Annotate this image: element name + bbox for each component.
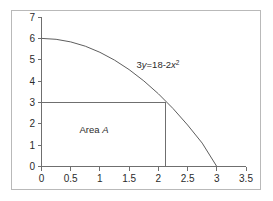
x-tick-label-1p5: 1.5 [122, 173, 136, 184]
area-label-var: A [101, 124, 108, 135]
x-axis-group: 0 0.5 1 1.5 2 2.5 3 3.5 [39, 167, 254, 185]
y-axis-group: 0 1 2 3 4 5 6 7 [29, 12, 41, 173]
area-label-prefix: Area [79, 124, 102, 135]
x-tick-label-2p5: 2.5 [181, 173, 195, 184]
y-tick-label-1: 1 [29, 140, 35, 151]
equation-mid: =18-2 [147, 59, 172, 70]
x-tick-label-0p5: 0.5 [64, 173, 78, 184]
y-tick-label-4: 4 [29, 76, 35, 87]
area-label: Area A [79, 124, 108, 135]
y-tick-label-0: 0 [29, 161, 35, 172]
figure-root: 0 1 2 3 4 5 6 7 0 [0, 0, 273, 201]
x-tick-label-0: 0 [39, 173, 45, 184]
y-tick-label-2: 2 [29, 118, 35, 129]
x-tick-label-3: 3 [214, 173, 220, 184]
equation-exponent: 2 [176, 59, 180, 66]
y-tick-label-7: 7 [29, 12, 35, 23]
y-tick-label-5: 5 [29, 54, 35, 65]
x-axis-ticks [42, 167, 247, 171]
x-tick-label-2: 2 [156, 173, 162, 184]
y-axis-ticks [38, 17, 42, 167]
curve-equation-label: 3y=18-2x2 [137, 59, 180, 71]
x-axis-tick-labels: 0 0.5 1 1.5 2 2.5 3 3.5 [39, 173, 254, 184]
x-tick-label-3p5: 3.5 [239, 173, 253, 184]
y-tick-label-3: 3 [29, 97, 35, 108]
x-tick-label-1: 1 [97, 173, 103, 184]
y-axis-tick-labels: 0 1 2 3 4 5 6 7 [29, 12, 35, 173]
y-tick-label-6: 6 [29, 33, 35, 44]
chart-canvas: 0 1 2 3 4 5 6 7 0 [0, 0, 273, 201]
